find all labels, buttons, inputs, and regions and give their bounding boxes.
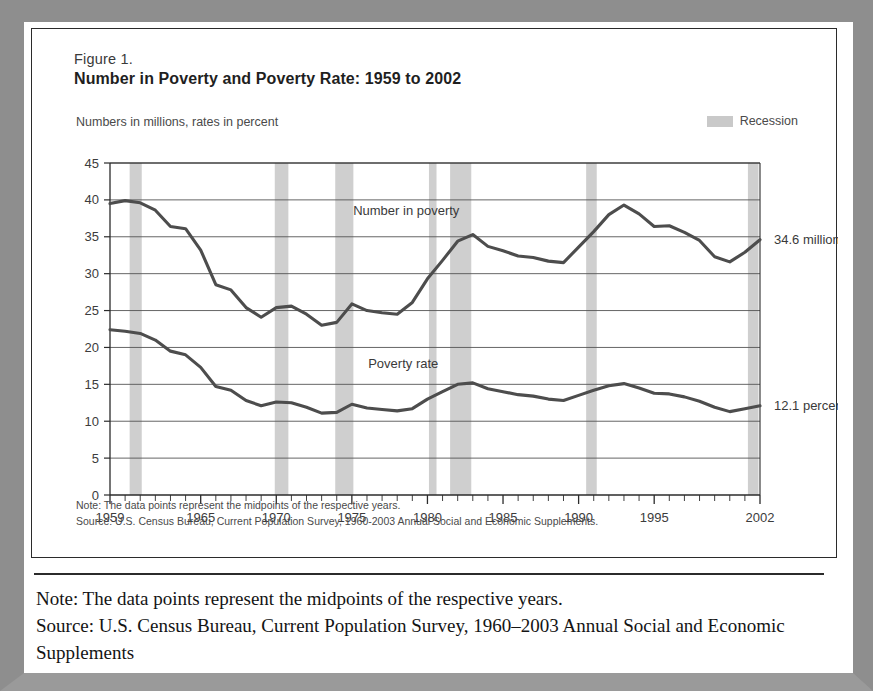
figure-notes: Note: The data points represent the midp…	[76, 497, 598, 530]
y-tick-label: 30	[85, 266, 99, 281]
y-tick-label: 25	[85, 303, 99, 318]
series-end-label: 34.6 million	[774, 232, 838, 247]
page-inner: Figure 1. Number in Poverty and Poverty …	[24, 22, 853, 673]
poverty-line-chart: 0510152025303540451959196519701975198019…	[32, 29, 838, 559]
figure-note-line: Note: The data points represent the midp…	[76, 497, 598, 513]
recession-band	[586, 163, 597, 495]
y-tick-label: 15	[85, 377, 99, 392]
figure-box: Figure 1. Number in Poverty and Poverty …	[31, 28, 837, 558]
figure-source-line: Source: U.S. Census Bureau, Current Popu…	[76, 513, 598, 529]
x-tick-label: 1995	[640, 510, 669, 525]
recession-band	[335, 163, 353, 495]
y-tick-label: 5	[92, 451, 99, 466]
series-end-label: 12.1 percent	[774, 398, 838, 413]
y-tick-label: 40	[85, 192, 99, 207]
caption-block: Note: The data points represent the midp…	[36, 586, 836, 667]
y-tick-label: 45	[85, 156, 99, 171]
caption-source: Source: U.S. Census Bureau, Current Popu…	[36, 613, 836, 667]
y-tick-label: 35	[85, 229, 99, 244]
chart-area: 0510152025303540451959196519701975198019…	[32, 29, 838, 559]
caption-divider	[34, 573, 824, 575]
recession-band	[748, 163, 759, 495]
figure-page: Figure 1. Number in Poverty and Poverty …	[0, 0, 873, 691]
recession-band	[130, 163, 142, 495]
y-tick-label: 10	[85, 414, 99, 429]
x-tick-label: 2002	[746, 510, 775, 525]
series-label: Number in poverty	[353, 203, 460, 218]
y-tick-label: 20	[85, 340, 99, 355]
recession-band	[275, 163, 289, 495]
caption-note: Note: The data points represent the midp…	[36, 586, 836, 613]
series-label: Poverty rate	[368, 356, 438, 371]
